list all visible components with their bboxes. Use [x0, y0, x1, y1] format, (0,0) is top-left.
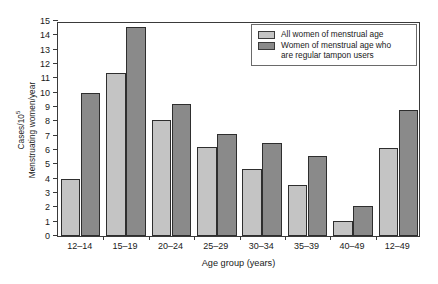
- x-axis-tick-label: 30–34: [239, 241, 284, 251]
- y-axis-tick-label: 7: [45, 131, 50, 141]
- bar-series-0: [106, 73, 126, 236]
- x-axis-tick-label: 12–49: [375, 241, 420, 251]
- x-axis-tick: [149, 236, 150, 240]
- y-axis-tick-label: 10: [40, 88, 50, 98]
- bar-series-1: [308, 156, 328, 236]
- legend-item-all-women: All women of menstrual age: [258, 29, 411, 39]
- bar-series-0: [288, 185, 308, 236]
- y-axis-tick-label: 14: [40, 30, 50, 40]
- bar-group: [149, 23, 194, 236]
- legend-item-tampon-users: Women of menstrual age who are regular t…: [258, 40, 411, 60]
- x-axis-tick: [103, 236, 104, 240]
- x-axis-tick-label: 35–39: [284, 241, 329, 251]
- chart-figure: Cases/105 Menstruating women/year 012345…: [0, 0, 438, 284]
- y-axis-tick: 15: [53, 20, 58, 21]
- bar-series-1: [217, 134, 237, 236]
- x-axis-tick-label: 20–24: [148, 241, 193, 251]
- x-axis-tick-label: 25–29: [193, 241, 238, 251]
- y-axis-tick-label: 9: [45, 102, 50, 112]
- bar-series-1: [172, 104, 192, 236]
- bar-series-0: [61, 179, 81, 236]
- x-axis-tick-label: 15–19: [102, 241, 147, 251]
- y-axis-title-line-1: Cases/105: [17, 81, 28, 178]
- y-axis-tick-label: 6: [45, 145, 50, 155]
- y-axis-tick-label: 3: [45, 188, 50, 198]
- chart-legend: All women of menstrual age Women of mens…: [251, 24, 417, 66]
- bar-series-0: [152, 120, 172, 236]
- y-axis-title-exponent: 5: [15, 110, 21, 113]
- x-axis-tick-label: 40–49: [329, 241, 374, 251]
- bar-series-0: [197, 147, 217, 236]
- x-axis-tick: [330, 236, 331, 240]
- bar-series-0: [242, 169, 262, 236]
- legend-label-series-0-line-0: All women of menstrual age: [281, 29, 383, 39]
- bar-series-1: [353, 206, 373, 236]
- y-axis-tick-label: 2: [45, 202, 50, 212]
- y-axis-title: Cases/105 Menstruating women/year: [10, 22, 44, 237]
- legend-label-series-1-line-0: Women of menstrual age who: [281, 40, 391, 50]
- x-axis-title: Age group (years): [57, 258, 420, 268]
- x-axis-tick-label: 12–14: [57, 241, 102, 251]
- bar-group: [194, 23, 239, 236]
- x-axis-tick: [194, 236, 195, 240]
- y-axis-title-line-2: Menstruating women/year: [27, 81, 38, 178]
- y-axis-tick-label: 0: [45, 231, 50, 241]
- y-axis-tick-label: 4: [45, 174, 50, 184]
- legend-label-series-1: Women of menstrual age who are regular t…: [281, 40, 391, 60]
- bar-group: [58, 23, 103, 236]
- x-axis-tick: [376, 236, 377, 240]
- y-axis-tick-label: 8: [45, 116, 50, 126]
- bar-series-1: [81, 93, 101, 236]
- bar-series-1: [399, 110, 419, 236]
- legend-swatch-icon-series-1: [258, 42, 275, 50]
- bar-group: [103, 23, 148, 236]
- y-axis-tick-label: 12: [40, 59, 50, 69]
- y-axis-tick-label: 11: [41, 73, 50, 83]
- x-axis-tick: [285, 236, 286, 240]
- y-axis-tick-label: 13: [40, 45, 50, 55]
- y-axis-tick-label: 15: [40, 16, 50, 26]
- legend-swatch-icon-series-0: [258, 31, 275, 39]
- x-axis-tick: [240, 236, 241, 240]
- bar-series-1: [262, 143, 282, 236]
- legend-label-series-0: All women of menstrual age: [281, 29, 383, 39]
- y-axis-tick-label: 1: [45, 217, 50, 227]
- legend-label-series-1-line-1: are regular tampon users: [281, 50, 391, 60]
- bar-series-1: [126, 27, 146, 236]
- y-axis-title-text: Cases/105 Menstruating women/year: [17, 81, 38, 178]
- y-axis-tick-label: 5: [45, 159, 50, 169]
- bar-series-0: [333, 221, 353, 236]
- bar-series-0: [379, 148, 399, 236]
